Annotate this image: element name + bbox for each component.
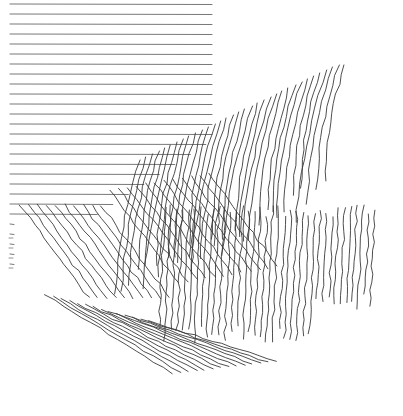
hatched-line-drawing: [0, 0, 403, 416]
lower-tail-strokes: [45, 295, 277, 374]
horizontal-hatch-lines: [9, 4, 212, 268]
line-art-canvas: [0, 0, 403, 416]
vertical-wavy-strokes: [159, 205, 375, 343]
